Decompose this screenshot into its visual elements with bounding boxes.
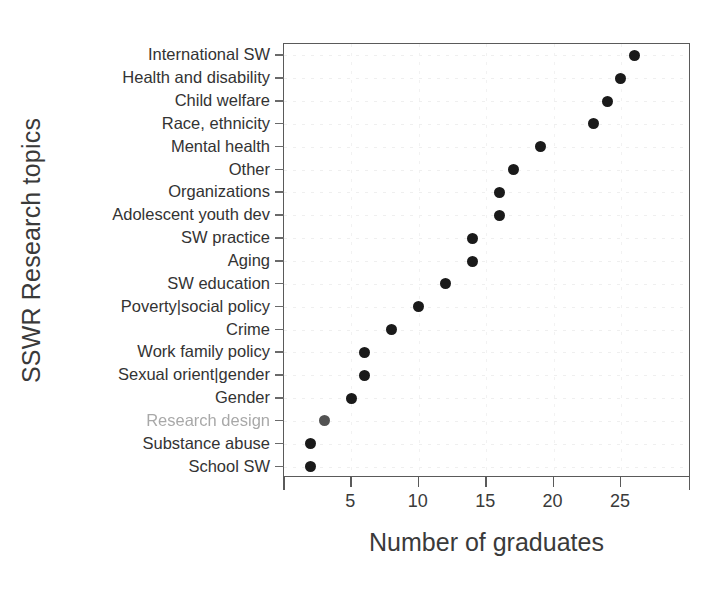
y-axis-tick-mark <box>275 329 284 331</box>
data-point <box>413 301 424 312</box>
y-axis-tick-mark <box>275 420 284 422</box>
data-point <box>535 141 546 152</box>
x-axis-tick-label: 5 <box>328 491 372 512</box>
gridline-vertical <box>554 44 555 476</box>
y-axis-tick-label: Race, ethnicity <box>162 114 270 132</box>
x-axis-end-tick <box>689 477 691 490</box>
y-axis-tick-mark <box>275 146 284 148</box>
data-point <box>440 278 451 289</box>
data-point <box>467 256 478 267</box>
y-axis-tick-mark <box>275 397 284 399</box>
data-point <box>305 438 316 449</box>
x-axis-tick-label: 25 <box>598 491 642 512</box>
y-axis-tick-mark <box>275 237 284 239</box>
data-point <box>588 118 599 129</box>
y-axis-tick-label: Child welfare <box>175 91 270 109</box>
y-axis-tick-mark <box>275 351 284 353</box>
x-axis-tick-label: 10 <box>396 491 440 512</box>
data-point <box>346 393 357 404</box>
x-axis-tick-label: 15 <box>463 491 507 512</box>
y-axis-tick-label: Substance abuse <box>142 434 270 452</box>
x-axis-tick-mark <box>350 477 352 487</box>
x-axis-tick-label: 20 <box>531 491 575 512</box>
y-axis-tick-mark <box>275 374 284 376</box>
y-axis-tick-labels: International SWHealth and disabilityChi… <box>60 43 276 477</box>
data-point <box>467 233 478 244</box>
y-axis-tick-label: Sexual orient|gender <box>118 365 270 383</box>
y-axis-tick-label: Crime <box>226 320 270 338</box>
y-axis-tick-mark <box>275 100 284 102</box>
y-axis-title: SSWR Research topics <box>18 117 47 382</box>
x-axis-title: Number of graduates <box>283 528 690 557</box>
y-axis-tick-label: Gender <box>215 388 270 406</box>
y-axis-tick-mark <box>275 466 284 468</box>
chart-figure: SSWR Research topics International SWHea… <box>0 0 726 593</box>
data-point <box>386 324 397 335</box>
y-axis-tick-mark <box>275 260 284 262</box>
y-axis-tick-label: SW education <box>167 274 270 292</box>
data-point <box>359 347 370 358</box>
y-axis-tick-label: Mental health <box>171 137 270 155</box>
data-point <box>508 164 519 175</box>
y-axis-tick-label: SW practice <box>181 228 270 246</box>
data-point <box>494 187 505 198</box>
y-axis-tick-mark <box>275 123 284 125</box>
data-point <box>629 50 640 61</box>
gridline-vertical <box>351 44 352 476</box>
gridline-vertical <box>486 44 487 476</box>
y-axis-tick-label: Aging <box>228 251 270 269</box>
y-axis-tick-label: Adolescent youth dev <box>112 205 270 223</box>
x-axis-tick-mark <box>620 477 622 487</box>
y-axis-tick-label: Work family policy <box>137 342 270 360</box>
x-axis-tick-mark <box>553 477 555 487</box>
y-axis-tick-label: School SW <box>188 457 270 475</box>
data-point <box>319 415 330 426</box>
data-point <box>615 73 626 84</box>
x-axis-tick-mark <box>418 477 420 487</box>
y-axis-tick-label: Poverty|social policy <box>121 297 270 315</box>
y-axis-tick-label: Research design <box>146 411 270 429</box>
gridline-vertical <box>621 44 622 476</box>
y-axis-tick-label: International SW <box>148 45 270 63</box>
y-axis-title-container: SSWR Research topics <box>0 0 64 500</box>
y-axis-tick-mark <box>275 443 284 445</box>
data-point <box>305 461 316 472</box>
y-axis-tick-mark <box>275 77 284 79</box>
y-axis-tick-label: Organizations <box>168 182 270 200</box>
plot-area <box>283 43 690 477</box>
y-axis-tick-label: Other <box>229 160 270 178</box>
data-point <box>359 370 370 381</box>
y-axis-tick-label: Health and disability <box>122 68 270 86</box>
gridline-vertical <box>419 44 420 476</box>
data-point <box>602 96 613 107</box>
x-axis-tick-mark <box>485 477 487 487</box>
y-axis-tick-mark <box>275 169 284 171</box>
y-axis-tick-mark <box>275 214 284 216</box>
y-axis-tick-mark <box>275 306 284 308</box>
y-axis-tick-mark <box>275 283 284 285</box>
y-axis-tick-mark <box>275 54 284 56</box>
y-axis-tick-mark <box>275 191 284 193</box>
x-axis-end-tick <box>283 477 285 490</box>
data-point <box>494 210 505 221</box>
